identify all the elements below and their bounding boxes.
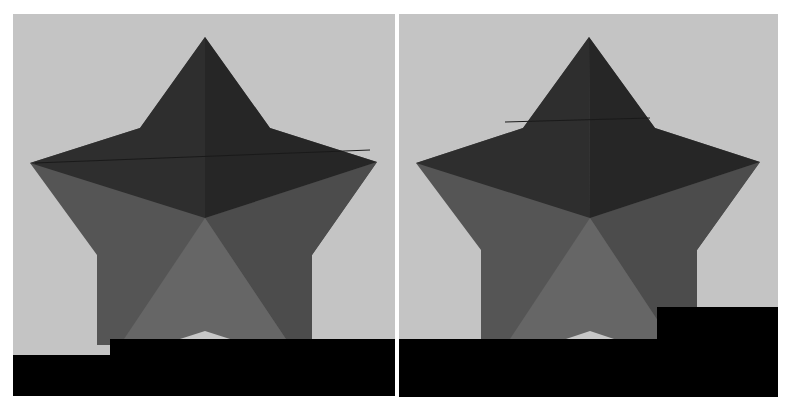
occluder-base [13,355,395,396]
right-star-render [399,14,778,397]
left-render-panel [13,14,395,396]
occluder-raised-block [657,307,778,397]
right-render-panel [399,14,778,397]
left-star-render [13,14,395,396]
